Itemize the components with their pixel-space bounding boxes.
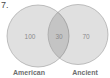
venn-diagram: 100 30 70 American Ancient	[0, 0, 110, 78]
venn-diagram-figure: 7. 100 30 70 American Ancient	[0, 0, 110, 78]
venn-label-ancient: Ancient	[72, 69, 98, 76]
venn-value-american-only: 100	[25, 33, 36, 40]
venn-value-intersection: 30	[55, 33, 63, 40]
venn-label-american: American	[13, 69, 45, 76]
venn-value-ancient-only: 70	[82, 33, 90, 40]
